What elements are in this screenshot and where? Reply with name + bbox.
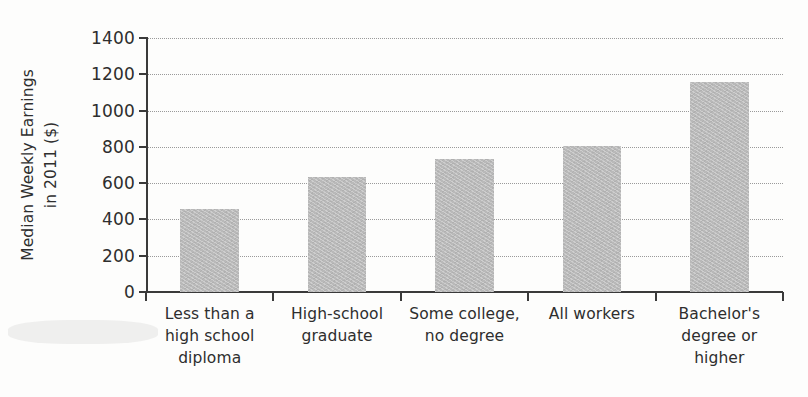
- x-tick-label-line: graduate: [273, 325, 400, 347]
- x-tick-label-line: Some college,: [401, 303, 528, 325]
- x-tick-mark: [145, 292, 147, 301]
- scan-artifact: [8, 320, 158, 344]
- y-axis-title-line-2: in 2011 ($): [41, 122, 62, 209]
- x-tick-mark: [782, 292, 784, 301]
- bar-slot: [273, 38, 400, 292]
- x-axis-tick-labels: Less than ahigh schooldiplomaHigh-school…: [146, 303, 783, 369]
- y-tick-label: 400: [102, 211, 135, 228]
- bar[interactable]: [308, 177, 367, 292]
- plot-area: 0200400600800100012001400: [146, 38, 783, 292]
- x-tick-label-line: high school: [146, 325, 273, 347]
- bar-slot: [528, 38, 655, 292]
- x-tick-label: Less than ahigh schooldiploma: [146, 303, 273, 369]
- x-tick-label-line: High-school: [273, 303, 400, 325]
- bar[interactable]: [563, 146, 622, 292]
- y-tick-label: 800: [102, 138, 135, 155]
- x-tick-mark: [272, 292, 274, 301]
- x-tick-mark: [527, 292, 529, 301]
- y-tick-label: 0: [124, 284, 135, 301]
- x-tick-label-line: no degree: [401, 325, 528, 347]
- bar[interactable]: [435, 159, 494, 292]
- y-axis-title-line-1: Median Weekly Earnings: [18, 69, 39, 261]
- x-tick-label-line: Less than a: [146, 303, 273, 325]
- x-tick-label: Some college,no degree: [401, 303, 528, 369]
- y-tick-label: 1000: [91, 102, 135, 119]
- bar-slot: [146, 38, 273, 292]
- y-tick-label: 1200: [91, 66, 135, 83]
- bar-slot: [656, 38, 783, 292]
- x-tick-label-line: degree or: [656, 325, 783, 347]
- x-tick-label: High-schoolgraduate: [273, 303, 400, 369]
- x-tick-label-line: diploma: [146, 347, 273, 369]
- x-tick-label: All workers: [528, 303, 655, 369]
- bar-chart-figure: Median Weekly Earnings in 2011 ($) 02004…: [0, 0, 808, 397]
- x-tick-label-line: higher: [656, 347, 783, 369]
- x-tick-mark: [400, 292, 402, 301]
- bars-series: [146, 38, 783, 292]
- y-axis-title: Median Weekly Earnings in 2011 ($): [14, 38, 66, 292]
- bar[interactable]: [690, 82, 749, 292]
- y-tick-label: 1400: [91, 30, 135, 47]
- x-tick-label: Bachelor'sdegree orhigher: [656, 303, 783, 369]
- x-tick-label-line: All workers: [528, 303, 655, 325]
- bar[interactable]: [180, 209, 239, 292]
- y-tick-label: 600: [102, 175, 135, 192]
- x-tick-label-line: Bachelor's: [656, 303, 783, 325]
- x-tick-mark: [655, 292, 657, 301]
- bar-slot: [401, 38, 528, 292]
- y-tick-label: 200: [102, 247, 135, 264]
